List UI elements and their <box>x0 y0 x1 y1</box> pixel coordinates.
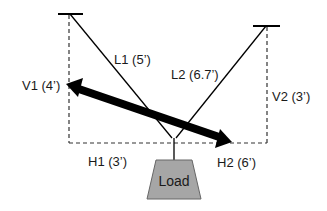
load-label: Load <box>158 173 189 189</box>
label-h2: H2 (6’) <box>217 155 256 170</box>
label-h1: H1 (3’) <box>88 154 127 169</box>
cable-load-diagram: Load L1 (5’) L2 (6.7’) V1 (4’) V2 (3’) H… <box>0 0 327 211</box>
arrow-head-right <box>215 129 232 148</box>
force-vector-arrow <box>66 78 232 148</box>
label-l2: L2 (6.7’) <box>171 67 219 82</box>
label-l1: L1 (5’) <box>114 52 151 67</box>
label-v1: V1 (4’) <box>22 78 60 93</box>
force-arrow-shaft <box>76 88 222 138</box>
label-v2: V2 (3’) <box>272 89 310 104</box>
cable-l2 <box>176 26 266 138</box>
